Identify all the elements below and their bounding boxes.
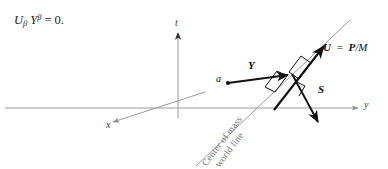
vector-U-symbol: U: [323, 41, 331, 53]
vector-U-mass-divisor: /M: [355, 41, 367, 53]
x-axis-line: [113, 92, 205, 122]
spacetime-diagram: [0, 0, 388, 169]
right-angle-marker-Y-worldline: [265, 71, 287, 92]
t-axis-label: t: [175, 18, 178, 28]
vector-U-arrow: [274, 46, 324, 110]
vector-Y-arrow: [228, 75, 288, 83]
point-a-label: a: [216, 74, 221, 84]
vector-Y-label: Y: [248, 60, 255, 71]
y-axis-label: y: [364, 100, 368, 110]
x-axis-label: x: [106, 120, 110, 130]
vector-U-equation-label: U=P/M: [323, 42, 367, 53]
vector-S-label: S: [318, 84, 324, 95]
point-a-marker: [226, 81, 230, 85]
axis-group: [5, 33, 358, 122]
